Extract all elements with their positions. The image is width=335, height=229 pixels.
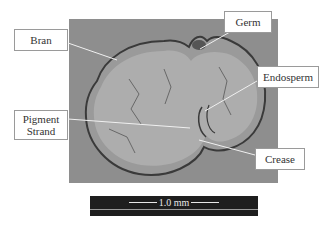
scale-bar-divider — [90, 209, 258, 210]
label-pigment-strand: Pigment Strand — [14, 110, 68, 140]
label-endosperm: Endosperm — [257, 66, 319, 88]
label-crease: Crease — [255, 148, 305, 170]
scale-bar-right-line — [191, 202, 219, 203]
scale-bar-left-line — [129, 202, 157, 203]
kernel-cross-section — [69, 19, 278, 183]
label-bran: Bran — [14, 29, 68, 51]
label-germ: Germ — [224, 11, 272, 33]
scale-bar-value: 1.0 mm — [159, 196, 190, 209]
micrograph-photo — [69, 19, 278, 183]
scale-bar: 1.0 mm — [90, 196, 258, 216]
